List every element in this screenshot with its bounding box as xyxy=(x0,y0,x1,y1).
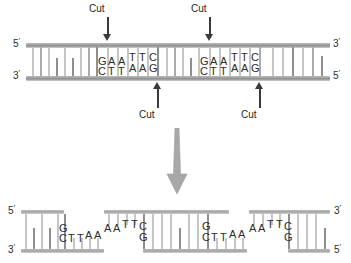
middle-fragment-right-bottom-base-T1: T xyxy=(211,232,218,243)
cut-label-top-left: Cut xyxy=(89,4,105,14)
right-fragment-top-base-T1: T xyxy=(267,219,274,230)
cut-arrow-bottom-right-shaft xyxy=(259,89,261,108)
middle-fragment-left-bottom-base-G: G xyxy=(139,232,148,243)
base-pair-rung xyxy=(56,58,58,76)
site2-bottom-base-A1: A xyxy=(231,63,238,74)
right-fragment-bottom-strand xyxy=(288,249,330,253)
cut-arrow-top-left-head xyxy=(103,34,111,41)
base-pair-rung xyxy=(188,214,190,249)
top-molecule-right-5prime: 5′ xyxy=(333,71,340,81)
left-fragment-bottom-base-T1: T xyxy=(68,233,75,244)
base-pair-rung xyxy=(324,228,326,249)
cut-label-bottom-left: Cut xyxy=(139,110,155,120)
base-pair-rung xyxy=(166,47,168,76)
site1-bottom-base-T1: T xyxy=(108,66,115,77)
site1-bottom-base-A1: A xyxy=(129,63,136,74)
middle-fragment-top-strand xyxy=(104,210,229,214)
base-pair-rung xyxy=(48,47,50,76)
middle-fragment-right-bottom-base-T2: T xyxy=(220,232,227,243)
site1-bottom-base-G: G xyxy=(149,63,158,74)
base-pair-rung xyxy=(190,58,192,76)
right-fragment-top-base-T2: T xyxy=(276,219,283,230)
site1-bottom-base-T2: T xyxy=(118,66,125,77)
cut-arrow-top-right-head xyxy=(205,34,213,41)
dna-restriction-diagram: Cut Cut 5′ 3′ 3′ 5′ G A A T T C C T T xyxy=(0,0,351,263)
base-pair-rung xyxy=(292,47,294,76)
middle-fragment-left-top-base-A1: A xyxy=(104,223,111,234)
right-fragment-top-base-A2: A xyxy=(258,223,265,234)
top-molecule-left-3prime: 3′ xyxy=(13,71,20,81)
site2-bottom-base-G: G xyxy=(251,63,260,74)
base-pair-rung xyxy=(182,47,184,76)
base-pair-rung xyxy=(152,214,154,249)
base-pair-rung xyxy=(32,47,34,76)
left-fragment-bottom-base-T2: T xyxy=(77,233,84,244)
cut-arrow-bottom-left-head xyxy=(153,82,161,89)
middle-fragment-right-bottom-base-C: C xyxy=(202,232,210,243)
right-fragment-top-base-A1: A xyxy=(249,223,256,234)
base-pair-rung xyxy=(80,47,82,76)
site1-bottom-base-A2: A xyxy=(139,63,146,74)
base-pair-rung xyxy=(315,214,317,249)
base-pair-rung xyxy=(33,228,35,249)
middle-fragment-right-bottom-base-A1: A xyxy=(229,229,236,240)
cut-arrow-bottom-right-head xyxy=(255,82,263,89)
top-molecule-left-5prime: 5′ xyxy=(13,39,20,49)
middle-fragment-left-top-base-T1: T xyxy=(122,219,129,230)
cut-arrow-bottom-left-shaft xyxy=(157,89,159,108)
base-pair-rung xyxy=(174,47,176,76)
left-fragment-bottom-base-A2: A xyxy=(94,230,101,241)
base-pair-rung xyxy=(161,214,163,249)
cut-label-top-right: Cut xyxy=(191,4,207,14)
top-molecule-top-strand xyxy=(26,43,330,48)
right-fragment-5prime: 5′ xyxy=(334,245,341,255)
left-fragment-bottom-strand xyxy=(21,249,104,253)
base-pair-rung xyxy=(64,47,66,76)
site2-bottom-base-T1: T xyxy=(210,66,217,77)
middle-fragment-left-top-base-A2: A xyxy=(113,223,120,234)
middle-fragment-right-bottom-base-A2: A xyxy=(238,229,245,240)
process-arrow-icon xyxy=(162,128,192,196)
site2-bottom-base-T2: T xyxy=(220,66,227,77)
base-pair-rung xyxy=(306,214,308,249)
base-pair-rung xyxy=(49,228,51,249)
base-pair-rung xyxy=(72,58,74,76)
base-pair-rung xyxy=(179,228,181,249)
base-pair-rung xyxy=(272,47,274,76)
site2-bottom-base-C: C xyxy=(200,66,208,77)
base-pair-rung xyxy=(321,56,323,76)
left-fragment-5prime: 5′ xyxy=(8,206,15,216)
base-pair-rung xyxy=(88,47,90,76)
base-pair-rung xyxy=(41,214,43,249)
base-pair-rung xyxy=(25,214,27,249)
base-pair-rung xyxy=(312,47,314,76)
middle-fragment-bottom-strand xyxy=(143,249,247,253)
right-fragment-3prime: 3′ xyxy=(334,206,341,216)
base-pair-rung xyxy=(197,214,199,249)
base-pair-rung xyxy=(297,214,299,249)
middle-fragment-left-top-base-T2: T xyxy=(131,219,138,230)
cut-label-bottom-right: Cut xyxy=(241,110,257,120)
top-molecule-bottom-strand xyxy=(26,76,330,81)
left-fragment-3prime: 3′ xyxy=(8,245,15,255)
base-pair-rung xyxy=(170,214,172,249)
base-pair-rung xyxy=(282,47,284,76)
right-fragment-bottom-base-G: G xyxy=(284,232,293,243)
base-pair-rung xyxy=(302,47,304,76)
top-molecule-right-3prime: 3′ xyxy=(333,39,340,49)
left-fragment-bottom-base-A1: A xyxy=(85,230,92,241)
left-fragment-bottom-base-C: C xyxy=(59,233,67,244)
site2-bottom-base-A2: A xyxy=(241,63,248,74)
base-pair-rung xyxy=(40,47,42,76)
site1-bottom-base-C: C xyxy=(98,66,106,77)
